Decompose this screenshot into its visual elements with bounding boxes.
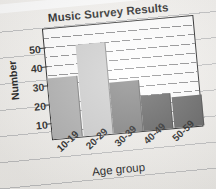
- scanned-page: Music Survey Results Number 50 40 30 20 …: [0, 0, 216, 189]
- bar-chart: Music Survey Results Number 50 40 30 20 …: [0, 0, 216, 189]
- bar-30-39: [109, 80, 143, 133]
- bar-series: [43, 14, 203, 139]
- plot-area: [42, 15, 204, 140]
- bar-10-19: [48, 76, 83, 140]
